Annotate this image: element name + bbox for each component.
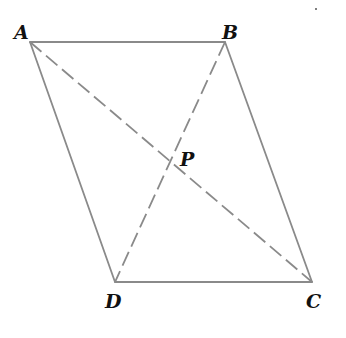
scan-speck <box>315 8 317 10</box>
diagram-canvas: A B C D P <box>0 0 346 338</box>
vertex-label-a: A <box>14 23 29 42</box>
diagonal-bd <box>115 42 225 282</box>
vertex-label-c: C <box>306 292 321 311</box>
parallelogram-figure <box>0 0 346 338</box>
side-bc <box>225 42 312 282</box>
vertex-label-d: D <box>105 292 121 311</box>
intersection-label-p: P <box>180 150 194 169</box>
vertex-label-b: B <box>222 23 238 42</box>
